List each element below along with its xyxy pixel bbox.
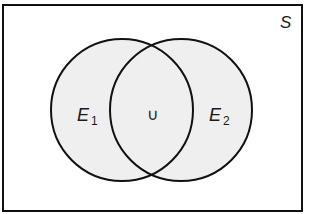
venn-diagram: S E1 ∪ E2 xyxy=(0,0,313,214)
set-e2-subscript: 2 xyxy=(223,114,230,128)
venn-diagram-canvas: S E1 ∪ E2 xyxy=(0,0,313,214)
set-e1-subscript: 1 xyxy=(91,114,98,128)
universe-label: S xyxy=(280,13,292,32)
set-e1-letter: E xyxy=(77,105,90,125)
set-e2-letter: E xyxy=(209,105,222,125)
union-symbol: ∪ xyxy=(147,106,159,123)
